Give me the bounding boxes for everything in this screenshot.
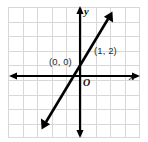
x-axis-label: x <box>129 72 134 83</box>
coordinate-plane-figure: (0, 0) (1, 2) y x O <box>0 0 148 142</box>
line-series-y-equals-2x <box>41 12 113 130</box>
origin-label: O <box>83 78 90 88</box>
point-label-origin: (0, 0) <box>49 57 72 67</box>
grid-lines <box>8 7 140 138</box>
point-label-one-two: (1, 2) <box>94 46 117 56</box>
y-axis-label: y <box>84 7 89 18</box>
plot-canvas <box>0 0 148 142</box>
